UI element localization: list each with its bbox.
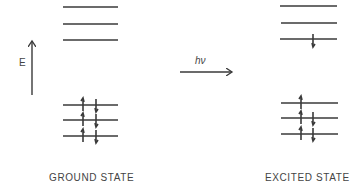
excited-state-label: EXCITED STATE <box>265 172 350 183</box>
excited-upper-levels <box>280 6 337 39</box>
excited-lower-levels <box>281 103 338 134</box>
ground-state-label: GROUND STATE <box>49 172 134 183</box>
ground-lower-levels <box>63 105 118 136</box>
energy-axis-label: E <box>19 57 26 68</box>
ground-upper-levels <box>63 7 118 40</box>
excited-electrons <box>299 34 315 141</box>
energy-diagram <box>0 0 359 190</box>
photon-label: hν <box>195 55 206 66</box>
electron-spin-down-icon <box>312 34 315 47</box>
